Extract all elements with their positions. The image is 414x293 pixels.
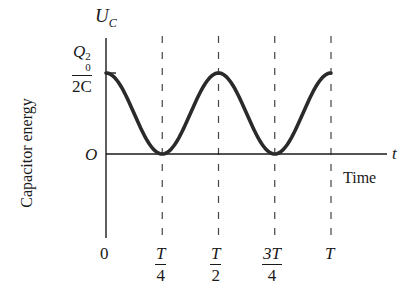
q-symbol: Q <box>73 42 85 61</box>
x-tick-0: 0 <box>100 245 109 262</box>
y-max-numerator: Q20 <box>72 43 92 76</box>
denominator-text: 2C <box>72 77 92 96</box>
origin-label: O <box>85 146 97 163</box>
y-max-label: Q20 2C <box>72 43 92 95</box>
x-tick-three-quarter-den: 4 <box>268 265 277 284</box>
x-tick-three-quarter-num: 3T <box>262 245 282 265</box>
x-tick-period: T <box>325 245 334 262</box>
x-tick-quarter-den: 4 <box>156 265 165 284</box>
x-tick-half-den: 2 <box>211 265 220 284</box>
y-symbol-sub: C <box>109 16 117 30</box>
x-tick-half: T 2 <box>210 245 221 284</box>
x-tick-half-num: T <box>210 245 221 265</box>
y-axis-label: Capacitor energy <box>18 98 36 207</box>
x-tick-three-quarter: 3T 4 <box>262 245 282 284</box>
y-axis-symbol: UC <box>95 6 117 29</box>
dashed-reference-lines <box>162 36 331 238</box>
energy-plot <box>0 0 414 293</box>
x-axis-symbol: t <box>392 145 397 162</box>
q-sub: 0 <box>85 62 91 73</box>
x-tick-quarter-num: T <box>155 245 166 265</box>
y-max-denominator: 2C <box>72 76 92 95</box>
x-tick-quarter: T 4 <box>155 245 166 284</box>
y-symbol-main: U <box>95 5 109 26</box>
x-tick-three-quarter-num-text: 3T <box>263 244 281 263</box>
x-axis-label: Time <box>343 170 376 186</box>
